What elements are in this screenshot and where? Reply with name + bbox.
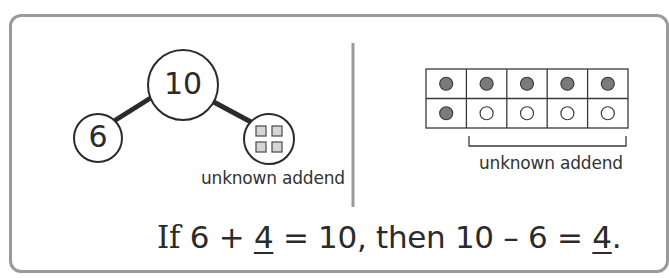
equation-suffix: . — [612, 219, 622, 255]
counter-empty — [480, 107, 493, 120]
counter-filled — [440, 107, 453, 120]
bond-known-part-value: 6 — [74, 119, 122, 154]
bond-unknown-addend-label: unknown addend — [201, 168, 345, 188]
unknown-addend-bracket — [469, 136, 626, 146]
equation-answer-1: 4 — [254, 219, 273, 255]
equation-prefix: If — [157, 219, 180, 255]
counter-empty — [561, 107, 574, 120]
bond-whole-value: 10 — [148, 66, 218, 101]
bond-part-unknown-circle — [244, 114, 294, 164]
equation-part1: 6 + — [180, 219, 254, 255]
bond-connector-right — [210, 100, 251, 122]
counter-empty — [601, 107, 614, 120]
ten-frame — [426, 69, 628, 128]
equation-sentence: If 6 + 4 = 10, then 10 – 6 = 4. — [157, 219, 621, 255]
counter-filled — [521, 77, 534, 90]
counter-filled — [440, 77, 453, 90]
counter-filled — [561, 77, 574, 90]
ten-frame-unknown-addend-label: unknown addend — [479, 153, 623, 173]
counter-filled — [480, 77, 493, 90]
equation-answer-2: 4 — [592, 219, 611, 255]
counter-empty — [521, 107, 534, 120]
equation-part2: = 10, then 10 – 6 = — [273, 219, 592, 255]
counter-filled — [601, 77, 614, 90]
